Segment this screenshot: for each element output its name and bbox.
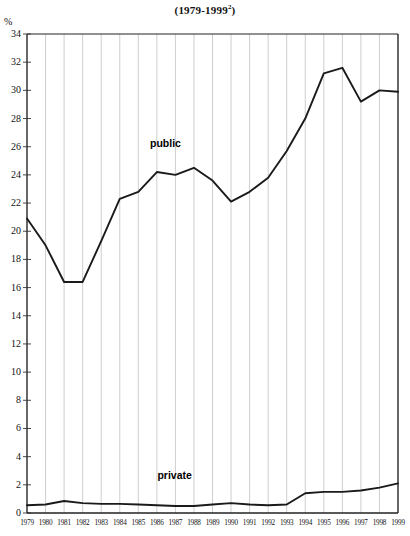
gridlines-group — [27, 34, 398, 513]
series-annotation-public: public — [150, 137, 181, 149]
y-axis-tick-label: 16 — [1, 283, 21, 293]
y-axis-tick-label: 10 — [1, 367, 21, 377]
y-axis-tick-label: 20 — [1, 226, 21, 236]
y-axis-tick-label: 30 — [1, 85, 21, 95]
y-axis-tick-label: 34 — [1, 29, 21, 39]
y-axis-tick-label: 0 — [1, 508, 21, 518]
y-axis-tick-label: 28 — [1, 114, 21, 124]
series-annotation-private: private — [157, 469, 191, 481]
y-axis-tick-label: 14 — [1, 311, 21, 321]
y-axis-tick-label: 24 — [1, 170, 21, 180]
y-axis-tick-label: 12 — [1, 339, 21, 349]
x-axis-tick-label: 1999 — [387, 519, 409, 527]
y-axis-tick-label: 18 — [1, 254, 21, 264]
y-axis-tick-label: 32 — [1, 57, 21, 67]
y-axis-tick-label: 22 — [1, 198, 21, 208]
y-axis-tick-label: 26 — [1, 142, 21, 152]
y-axis-tick-label: 8 — [1, 395, 21, 405]
chart-container: (1979-19992) % 3432302826242220181614121… — [0, 0, 410, 536]
y-axis-tick-label: 2 — [1, 480, 21, 490]
y-axis-tick-label: 6 — [1, 423, 21, 433]
y-axis-tick-label: 4 — [1, 452, 21, 462]
chart-plot-svg — [0, 0, 410, 536]
